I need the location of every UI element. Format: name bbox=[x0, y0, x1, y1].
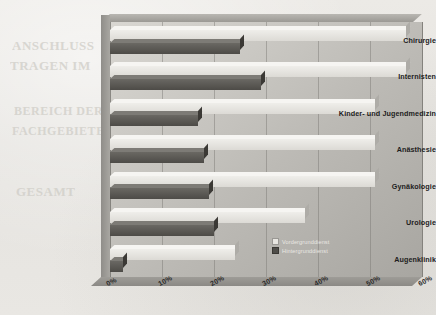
bar-hintergrunddienst bbox=[110, 43, 240, 54]
y-axis-label: Augenklinik bbox=[332, 255, 436, 264]
legend-item: Vordergrunddienst bbox=[272, 238, 329, 245]
bar-hintergrunddienst bbox=[110, 79, 261, 90]
bar-hintergrunddienst bbox=[110, 152, 204, 163]
bar-chart: ChirurgieInternistenKinder- und Jugendme… bbox=[0, 0, 436, 315]
y-axis-label: Anästhesie bbox=[332, 145, 436, 154]
bar-vordergrunddienst bbox=[110, 249, 235, 260]
bar-hintergrunddienst bbox=[110, 188, 209, 199]
legend-swatch-light bbox=[272, 238, 279, 245]
y-axis-label: Chirurgie bbox=[332, 36, 436, 45]
chart-top-wall bbox=[101, 14, 422, 22]
bar-hintergrunddienst bbox=[110, 261, 123, 272]
legend-swatch-dark bbox=[272, 247, 279, 254]
y-axis-label: Gynäkologie bbox=[332, 182, 436, 191]
chart-legend: VordergrunddienstHintergrunddienst bbox=[272, 238, 329, 256]
legend-item: Hintergrunddienst bbox=[272, 247, 329, 254]
legend-label: Vordergrunddienst bbox=[282, 239, 329, 245]
y-axis-label: Urologie bbox=[332, 218, 436, 227]
bar-hintergrunddienst bbox=[110, 115, 198, 126]
legend-label: Hintergrunddienst bbox=[282, 248, 328, 254]
y-axis-label: Internisten bbox=[332, 72, 436, 81]
y-axis-label: Kinder- und Jugendmedizin bbox=[332, 109, 436, 118]
bar-hintergrunddienst bbox=[110, 225, 214, 236]
chart-side-wall bbox=[101, 15, 110, 277]
